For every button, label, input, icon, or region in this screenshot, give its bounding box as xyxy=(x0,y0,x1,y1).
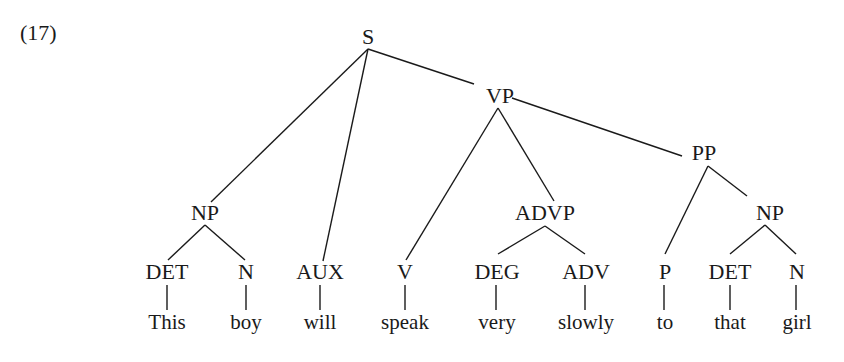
branch-advp-adv xyxy=(545,226,585,254)
node-v: V xyxy=(397,261,413,283)
node-det-1: DET xyxy=(146,261,189,283)
node-s: S xyxy=(362,26,374,48)
node-pp: PP xyxy=(692,142,716,164)
word-will: will xyxy=(304,312,337,333)
tree-branches xyxy=(0,0,844,362)
node-n-1: N xyxy=(238,261,254,283)
node-det-2: DET xyxy=(709,261,752,283)
branch-vp-advp xyxy=(498,108,554,201)
branch-np-det2 xyxy=(730,225,765,254)
word-speak: speak xyxy=(381,312,429,333)
branch-advp-deg xyxy=(498,226,545,254)
branch-np-det xyxy=(168,225,205,260)
word-girl: girl xyxy=(782,312,811,333)
branch-vp-v xyxy=(406,108,498,260)
branch-s-vp xyxy=(368,49,474,84)
branch-pp-p xyxy=(665,166,708,254)
branch-s-aux xyxy=(323,49,368,261)
word-boy: boy xyxy=(230,312,262,333)
word-slowly: slowly xyxy=(558,312,614,333)
branch-s-np xyxy=(211,49,368,202)
node-aux: AUX xyxy=(296,261,344,283)
word-that: that xyxy=(714,312,746,333)
node-p: P xyxy=(659,261,671,283)
node-adv: ADV xyxy=(562,261,610,283)
word-to: to xyxy=(657,312,673,333)
word-this: This xyxy=(148,312,185,333)
node-deg: DEG xyxy=(474,261,519,283)
node-n-2: N xyxy=(789,261,805,283)
node-np-object: NP xyxy=(756,202,784,224)
branch-pp-np xyxy=(708,166,747,196)
node-np-subject: NP xyxy=(191,202,219,224)
branch-vp-pp xyxy=(512,98,682,156)
branch-np-n2 xyxy=(765,225,796,254)
node-vp: VP xyxy=(486,85,514,107)
node-advp: ADVP xyxy=(515,202,575,224)
word-very: very xyxy=(478,312,515,333)
branch-np-n xyxy=(205,225,245,260)
